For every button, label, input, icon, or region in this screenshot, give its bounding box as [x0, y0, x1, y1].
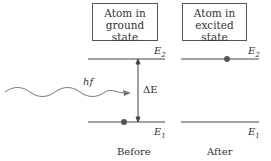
photon-energy-label: hf: [83, 76, 93, 87]
photon-wave: [5, 88, 124, 97]
delta-e-arrow: [136, 59, 140, 122]
after-e2-label: E2: [248, 45, 260, 59]
after-box-line1: Atom in: [183, 7, 246, 19]
after-box-line2: excited state: [183, 19, 246, 43]
electron-after: [224, 56, 230, 62]
before-caption: Before: [117, 146, 151, 157]
delta-e-label: ΔE: [143, 84, 158, 95]
after-state-box: Atom in excited state: [182, 3, 247, 41]
after-e1-label: E1: [248, 126, 260, 140]
before-box-line1: Atom in: [93, 7, 157, 19]
before-box-line2: ground state: [93, 19, 157, 43]
after-caption: After: [207, 146, 232, 157]
photon-arrowhead: [123, 90, 131, 96]
before-e1-label: E1: [154, 126, 166, 140]
before-state-box: Atom in ground state: [92, 3, 158, 41]
electron-before: [121, 119, 127, 125]
before-e2-label: E2: [154, 45, 166, 59]
